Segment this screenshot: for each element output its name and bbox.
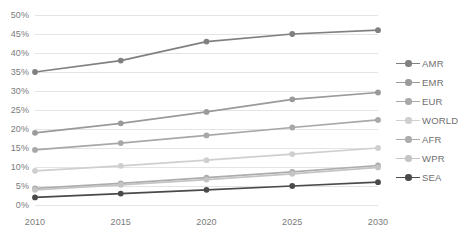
data-point <box>32 69 38 75</box>
y-tick-label: 30% <box>3 86 29 96</box>
legend-label: SEA <box>420 172 442 183</box>
data-point <box>118 191 124 197</box>
legend-item-sea[interactable]: SEA <box>396 168 458 187</box>
x-tick-label: 2010 <box>15 217 55 227</box>
series-eur <box>32 117 381 153</box>
chart-legend: AMREMREURWORLDAFRWPRSEA <box>396 54 458 187</box>
legend-marker-icon <box>396 173 420 183</box>
data-point <box>375 27 381 33</box>
data-point <box>204 39 210 45</box>
data-point <box>289 171 295 177</box>
x-tick-label: 2030 <box>358 217 398 227</box>
legend-marker-icon <box>396 97 420 107</box>
legend-label: WPR <box>420 153 445 164</box>
y-tick-label: 10% <box>3 162 29 172</box>
x-tick-label: 2020 <box>187 217 227 227</box>
legend-label: AFR <box>420 134 442 145</box>
data-point <box>375 117 381 123</box>
data-point <box>118 58 124 64</box>
legend-marker-icon <box>396 154 420 164</box>
line-chart: 0%5%10%15%20%25%30%35%40%45%50% 20102015… <box>0 0 458 243</box>
data-point <box>204 157 210 163</box>
legend-item-world[interactable]: WORLD <box>396 111 458 130</box>
data-point <box>118 163 124 169</box>
legend-marker-icon <box>396 135 420 145</box>
data-point <box>118 182 124 188</box>
data-point <box>289 31 295 37</box>
data-point <box>118 120 124 126</box>
data-point <box>204 133 210 139</box>
data-point <box>204 109 210 115</box>
legend-marker-icon <box>396 116 420 126</box>
y-tick-label: 40% <box>3 48 29 58</box>
legend-marker-icon <box>396 78 420 88</box>
legend-item-eur[interactable]: EUR <box>396 92 458 111</box>
data-point <box>204 187 210 193</box>
legend-label: EMR <box>420 77 444 88</box>
y-tick-label: 15% <box>3 143 29 153</box>
data-point <box>289 151 295 157</box>
data-point <box>375 164 381 170</box>
data-point <box>375 179 381 185</box>
x-tick-label: 2025 <box>272 217 312 227</box>
legend-item-afr[interactable]: AFR <box>396 130 458 149</box>
y-tick-label: 35% <box>3 67 29 77</box>
legend-label: EUR <box>420 96 443 107</box>
series-sea <box>32 179 381 200</box>
data-point <box>118 140 124 146</box>
data-point <box>289 125 295 131</box>
data-point <box>32 130 38 136</box>
legend-label: WORLD <box>420 115 458 126</box>
data-point <box>204 177 210 183</box>
data-point <box>32 187 38 193</box>
data-point <box>289 183 295 189</box>
legend-item-amr[interactable]: AMR <box>396 54 458 73</box>
y-tick-label: 0% <box>3 200 29 210</box>
legend-marker-icon <box>396 59 420 69</box>
x-tick-label: 2015 <box>101 217 141 227</box>
legend-label: AMR <box>420 58 444 69</box>
chart-plot-area <box>0 0 458 243</box>
legend-item-wpr[interactable]: WPR <box>396 149 458 168</box>
data-point <box>32 147 38 153</box>
legend-item-emr[interactable]: EMR <box>396 73 458 92</box>
y-tick-label: 20% <box>3 124 29 134</box>
data-point <box>375 145 381 151</box>
data-point <box>32 195 38 201</box>
y-tick-label: 50% <box>3 10 29 20</box>
y-tick-label: 5% <box>3 181 29 191</box>
series-line <box>35 30 378 72</box>
data-point <box>32 168 38 174</box>
data-point <box>375 90 381 96</box>
y-tick-label: 45% <box>3 29 29 39</box>
data-point <box>289 96 295 102</box>
y-tick-label: 25% <box>3 105 29 115</box>
